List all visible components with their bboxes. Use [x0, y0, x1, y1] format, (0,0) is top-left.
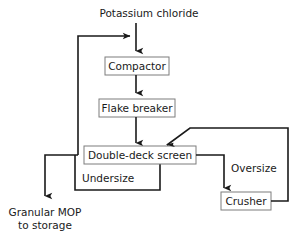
product-label-line1: Granular MOP — [9, 206, 82, 218]
line-screen-to-product — [45, 155, 78, 196]
stream-label-undersize: Undersize — [82, 172, 134, 184]
feed-label: Potassium chloride — [99, 7, 198, 19]
line-screen-to-crusher — [196, 155, 224, 188]
unit-label-compactor: Compactor — [108, 60, 166, 72]
unit-label-crusher: Crusher — [225, 195, 267, 207]
product-label-line2: to storage — [18, 219, 72, 231]
stream-label-oversize: Oversize — [231, 162, 277, 174]
recycle-line-to-feed — [78, 36, 130, 155]
unit-label-double-deck-screen: Double-deck screen — [88, 149, 192, 161]
unit-label-flake-breaker: Flake breaker — [101, 102, 173, 114]
process-flow-diagram: Potassium chloride Compactor Flake break… — [0, 0, 298, 239]
